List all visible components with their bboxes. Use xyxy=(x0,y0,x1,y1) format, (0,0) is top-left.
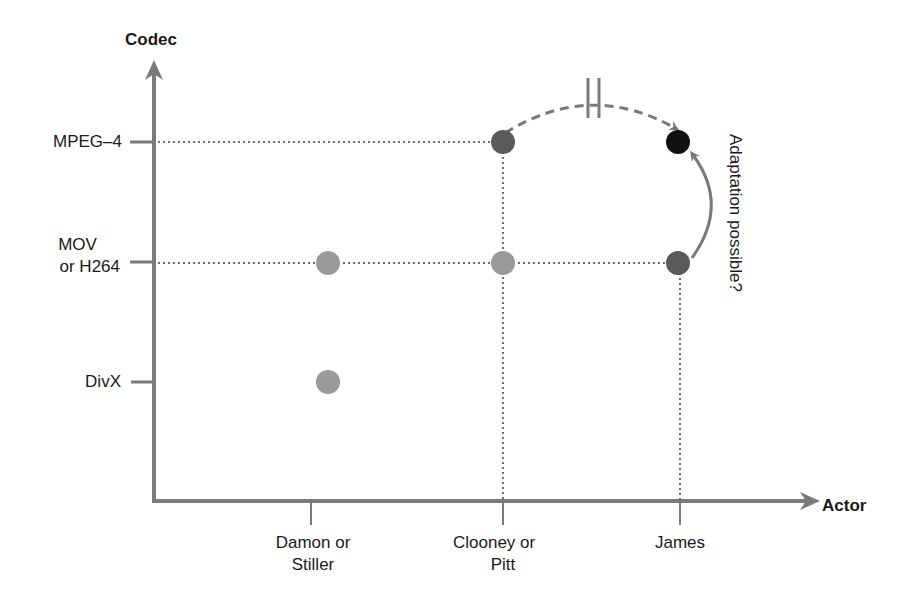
dashed-transition-arrow xyxy=(505,78,675,133)
x-axis xyxy=(152,492,820,525)
y-tick-divx: DivX xyxy=(20,371,121,393)
point-clooney-mov xyxy=(491,251,515,275)
y-axis-title: Codec xyxy=(125,29,177,51)
x-tick-clooney-line2: Pitt xyxy=(491,554,516,576)
point-damon-mov xyxy=(316,251,340,275)
point-damon-divx xyxy=(316,370,340,394)
x-axis-title: Actor xyxy=(822,495,866,517)
y-tick-mpeg4: MPEG–4 xyxy=(20,131,122,153)
adaptation-arrow xyxy=(692,155,711,258)
adaptation-annotation: Adaptation possible? xyxy=(725,134,745,292)
point-james-mov xyxy=(666,251,690,275)
point-clooney-mpeg4 xyxy=(491,130,515,154)
y-tick-mov-line1: MOV xyxy=(20,234,127,256)
y-axis xyxy=(130,60,163,500)
x-tick-clooney-line1: Clooney or xyxy=(453,532,535,554)
x-tick-damon-line1: Damon or xyxy=(276,532,351,554)
x-tick-damon-line2: Stiller xyxy=(292,554,335,576)
y-tick-mov-line2: or H264 xyxy=(20,256,120,278)
chart-canvas xyxy=(0,0,904,605)
x-tick-james: James xyxy=(655,532,705,554)
point-james-mpeg4 xyxy=(666,130,690,154)
dotted-guides xyxy=(158,142,680,500)
